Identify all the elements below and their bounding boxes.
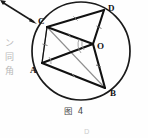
margin-char-1: ン xyxy=(5,38,14,49)
point-label-A: A xyxy=(30,65,37,75)
geometry-figure: C D O A B xyxy=(0,0,148,138)
point-label-O: O xyxy=(97,41,104,51)
margin-notes: ン 同 角 xyxy=(1,38,17,77)
figure-page: C D O A B ン 同 角 图 4 D xyxy=(0,0,148,138)
figure-caption: 图 4 xyxy=(0,104,148,116)
segment-A-O xyxy=(42,44,93,63)
margin-char-3: 角 xyxy=(5,66,14,77)
bold-segments xyxy=(42,10,105,88)
point-label-B: B xyxy=(110,88,116,98)
point-label-D: D xyxy=(108,3,115,13)
page-footer-fragment: D xyxy=(84,128,89,136)
annotation-arrow-icon xyxy=(0,0,37,24)
point-label-C: C xyxy=(38,16,45,26)
angle-arc-at-O-2 xyxy=(78,39,81,53)
margin-char-2: 同 xyxy=(5,52,14,63)
